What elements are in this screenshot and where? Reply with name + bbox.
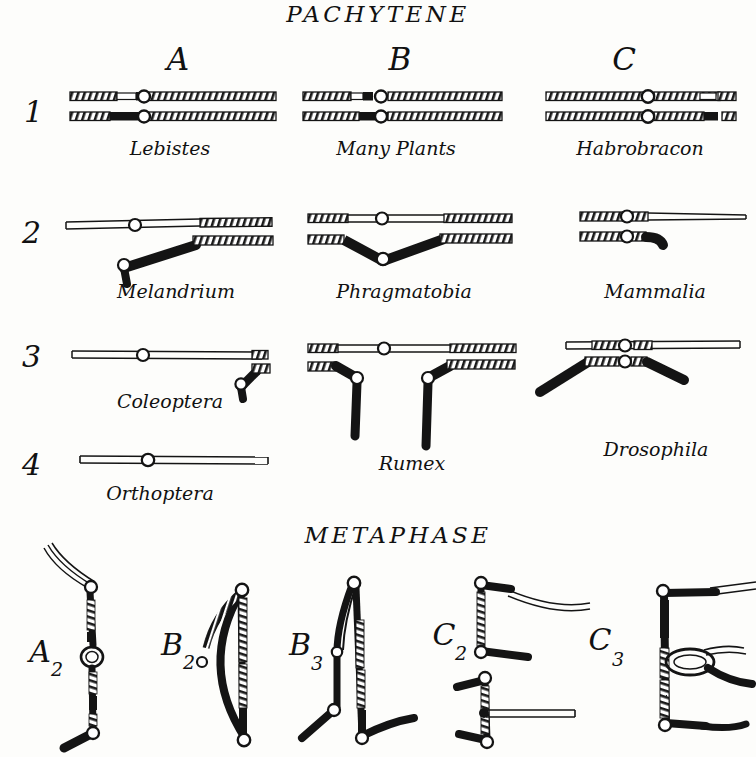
chromosome-figure-1a: Lebistes — [70, 91, 276, 160]
chromosome-figure-3c: Drosophila — [540, 340, 740, 461]
metaphase-label-c2-sub: 2 — [454, 642, 467, 664]
column-label-c: C — [612, 41, 636, 77]
chromosome-figure-4a: Orthoptera — [80, 454, 268, 504]
metaphase-label-a2-sub: 2 — [50, 658, 63, 680]
species-label-phragmatobia: Phragmatobia — [335, 280, 472, 302]
chromosome-figure-3b: Rumex — [308, 343, 516, 475]
chromosome-figure-1c: Habrobracon — [546, 90, 736, 159]
species-label-mammalia: Mammalia — [603, 280, 706, 302]
metaphase-label-b3-base: B — [288, 627, 311, 662]
metaphase-label-a2-base: A — [26, 634, 51, 669]
chromosome-figure-3a: Coleoptera — [72, 349, 270, 412]
species-label-melandrium: Melandrium — [116, 280, 235, 302]
row-label-2: 2 — [21, 215, 41, 250]
metaphase-label-c3-base: C — [589, 622, 612, 657]
chromosome-figure-2a: Melandrium — [66, 218, 273, 302]
chromosome-figure-1b: Many Plants — [303, 91, 502, 160]
species-label-coleoptera: Coleoptera — [117, 390, 223, 412]
metaphase-figure-a2: A 2 — [26, 543, 103, 748]
row-label-4: 4 — [21, 447, 41, 482]
column-label-a: A — [164, 41, 189, 77]
species-label-many-plants: Many Plants — [335, 137, 456, 159]
figure-plate: PACHYTENE METAPHASE PACHYTENE METAPHASE … — [0, 0, 756, 757]
chromosome-figure-2b: Phragmatobia — [308, 213, 512, 303]
metaphase-figure-b3: B 3 — [288, 577, 414, 744]
metaphase-figure-c3: C 3 — [589, 582, 756, 731]
species-label-habrobracon: Habrobracon — [575, 137, 703, 159]
chromosome-figure-2c: Mammalia — [580, 211, 746, 303]
metaphase-label-c3-sub: 3 — [612, 648, 624, 670]
section-heading-metaphase: METAPHASE — [303, 522, 491, 548]
metaphase-label-c2-base: C — [433, 617, 456, 652]
metaphase-figure-c2: C 2 — [433, 577, 590, 748]
section-heading-pachytene: PACHYTENE — [285, 1, 469, 27]
species-label-drosophila: Drosophila — [603, 438, 709, 460]
metaphase-label-b3-sub: 3 — [311, 652, 323, 674]
species-label-rumex: Rumex — [378, 452, 446, 474]
figure-canvas: PACHYTENE METAPHASE A B C 1 2 3 4 — [0, 0, 756, 757]
row-label-1: 1 — [24, 94, 43, 129]
row-label-3: 3 — [22, 339, 41, 374]
metaphase-figure-b2: B 2 — [160, 584, 250, 746]
metaphase-label-b2-sub: 2 — [182, 651, 195, 673]
species-label-orthoptera: Orthoptera — [106, 482, 213, 504]
metaphase-label-b2-base: B — [160, 627, 183, 662]
column-label-b: B — [388, 41, 412, 77]
species-label-lebistes: Lebistes — [129, 137, 211, 159]
